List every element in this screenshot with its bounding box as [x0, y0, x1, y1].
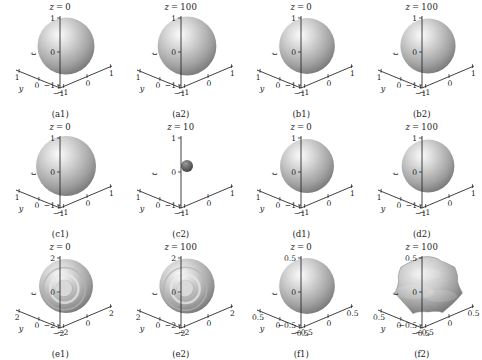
y-axis-tick-label: 1: [256, 193, 261, 202]
isosurface-blob: [394, 257, 462, 314]
axes-3d: 10−1t10−1y−101x: [362, 130, 482, 222]
t-axis-tick-label: 0: [171, 168, 176, 177]
x-axis-tick-label: 0.5: [346, 309, 358, 318]
x-axis-tick-label: 0: [206, 319, 211, 328]
x-axis-tick-label: 0: [206, 79, 211, 88]
t-axis-tick-label: −1: [44, 201, 55, 210]
x-axis-tick-label: 2: [109, 309, 114, 318]
panel-caption: (c2): [121, 229, 242, 239]
x-axis-tick-label: −1: [419, 88, 430, 97]
t-axis-tick-label: −1: [405, 81, 416, 90]
t-axis-tick-label: 1: [291, 14, 296, 23]
y-axis-tick-label: 0: [155, 321, 160, 330]
x-axis-tick-label: 0: [86, 199, 91, 208]
t-axis-tick-label: 1: [50, 14, 55, 23]
t-axis-tick-label: 2: [50, 254, 55, 263]
x-axis-label: x: [200, 219, 205, 222]
y-axis-label: y: [138, 204, 144, 213]
x-axis-label: x: [321, 219, 326, 222]
panel-a2: z = 10010−1t10−1y−101x(a2): [121, 0, 242, 120]
panel-caption: (c1): [0, 229, 121, 239]
y-axis-tick-label: 0: [275, 81, 280, 90]
x-axis-label: x: [441, 99, 446, 102]
panel-caption: (a2): [121, 109, 242, 119]
t-axis-tick-label: −1: [285, 81, 296, 90]
isosurface-sphere: [157, 17, 216, 76]
y-axis-label: y: [259, 324, 265, 333]
axes-3d: 20−2t20−2y−202x: [0, 250, 121, 342]
t-axis-tick-label: 0: [50, 48, 55, 57]
y-axis-label: y: [379, 84, 385, 93]
y-axis-tick-label: 0: [34, 321, 39, 330]
x-axis-label: x: [80, 99, 85, 102]
y-axis-tick-label: 1: [15, 193, 20, 202]
t-axis-tick-label: −1: [285, 201, 296, 210]
t-axis-label: t: [150, 292, 159, 296]
t-axis-tick-label: 0: [412, 168, 417, 177]
y-axis-tick-label: 1: [135, 193, 140, 202]
t-axis-label: t: [29, 52, 38, 56]
y-axis-tick-label: 1: [376, 73, 381, 82]
x-axis-tick-label: 1: [350, 189, 355, 198]
blob-highlight: [411, 268, 441, 280]
x-axis-tick-label: −1: [57, 208, 68, 217]
axes-3d: 20−2t20−2y−202x: [121, 250, 242, 342]
x-axis-tick-label: 0: [447, 319, 452, 328]
t-axis-tick-label: 1: [291, 134, 296, 143]
axes-3d: 10−1t10−1y−101x: [241, 10, 362, 102]
t-axis-tick-label: 1: [50, 134, 55, 143]
axes-3d: 0.50−0.5t0.50−0.5y−0.500.5x: [241, 250, 362, 342]
t-axis-tick-label: 0: [412, 288, 417, 297]
t-axis-label: t: [270, 292, 279, 296]
isosurface-sphere: [181, 160, 193, 172]
isosurface-sphere: [38, 18, 95, 75]
y-axis-label: y: [379, 324, 385, 333]
t-axis-tick-label: −2: [164, 321, 175, 330]
axes-3d: 10−1t10−1y−101x: [0, 130, 121, 222]
y-axis-label: y: [18, 84, 24, 93]
isosurface-sphere: [36, 136, 96, 196]
t-axis-tick-label: −0.5: [398, 321, 417, 330]
y-axis-tick-label: 1: [256, 73, 261, 82]
t-axis-tick-label: −1: [405, 201, 416, 210]
x-axis-tick-label: −2: [178, 328, 189, 337]
t-axis-label: t: [391, 52, 400, 56]
x-axis-label: x: [80, 219, 85, 222]
x-axis-label: x: [200, 99, 205, 102]
isosurface-sphere: [400, 18, 455, 73]
t-axis-label: t: [150, 52, 159, 56]
t-axis-label: t: [270, 172, 279, 176]
y-axis-label: y: [18, 324, 24, 333]
x-axis-tick-label: 0: [86, 79, 91, 88]
axes-3d: 10−1t10−1y−101x: [362, 10, 482, 102]
y-axis-tick-label: 0: [34, 201, 39, 210]
t-axis-tick-label: 1: [412, 134, 417, 143]
axes-3d: 10−1t10−1y−101x: [0, 10, 121, 102]
panel-e2: z = 10020−2t20−2y−202x(e2): [121, 240, 242, 360]
t-axis-tick-label: 1: [412, 14, 417, 23]
t-axis-label: t: [150, 172, 159, 176]
x-axis-label: x: [200, 339, 205, 342]
axes-3d: 10−1t10−1y−101x: [241, 130, 362, 222]
x-axis-label: x: [441, 339, 446, 342]
x-axis-tick-label: 0: [447, 79, 452, 88]
x-axis-tick-label: 1: [471, 69, 476, 78]
x-axis-tick-label: −1: [298, 208, 309, 217]
isosurface-core: [176, 280, 193, 297]
t-axis-tick-label: 0: [291, 288, 296, 297]
panel-caption: (d2): [362, 229, 482, 239]
x-axis-tick-label: 0.5: [467, 309, 479, 318]
panel-caption: (a1): [0, 109, 121, 119]
x-axis-tick-label: −1: [419, 208, 430, 217]
blob-highlight: [423, 290, 457, 302]
y-axis-tick-label: 2: [135, 313, 140, 322]
x-axis-tick-label: −1: [178, 208, 189, 217]
x-axis-tick-label: 0: [327, 79, 332, 88]
t-axis-tick-label: −2: [44, 321, 55, 330]
x-axis-label: x: [441, 219, 446, 222]
isosurface-sphere: [401, 140, 454, 193]
x-axis-tick-label: 0: [206, 199, 211, 208]
y-axis-tick-label: 0: [396, 201, 401, 210]
y-axis-tick-label: 0: [396, 81, 401, 90]
t-axis-label: t: [391, 172, 400, 176]
